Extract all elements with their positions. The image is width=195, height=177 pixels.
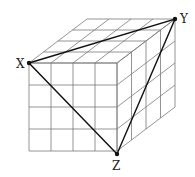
label-y: Y [179,12,189,26]
cube-diagram: X Y Z [0,0,195,177]
vertex-y-dot [173,17,177,21]
vertex-points [27,17,177,156]
vertex-x-dot [27,61,31,65]
label-z: Z [112,159,120,173]
vertex-z-dot [115,152,119,156]
label-x: X [16,57,25,71]
